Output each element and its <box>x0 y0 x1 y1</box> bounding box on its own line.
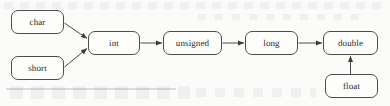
node-int[interactable]: int <box>88 31 140 55</box>
node-int-label: int <box>109 39 119 48</box>
node-float[interactable]: float <box>325 74 378 98</box>
edge-char-to-int <box>65 23 88 39</box>
node-double[interactable]: double <box>323 31 378 55</box>
node-long[interactable]: long <box>245 31 298 55</box>
node-char[interactable]: char <box>11 10 64 34</box>
node-float-label: float <box>343 82 360 91</box>
edge-short-to-int <box>65 49 88 68</box>
type-conversion-flowchart: char short int unsigned long double floa… <box>0 0 390 106</box>
node-double-label: double <box>338 39 363 48</box>
node-long-label: long <box>263 39 279 48</box>
node-unsigned[interactable]: unsigned <box>163 31 222 55</box>
node-short[interactable]: short <box>11 56 64 80</box>
node-char-label: char <box>30 18 46 27</box>
node-short-label: short <box>28 64 47 73</box>
node-unsigned-label: unsigned <box>176 39 209 48</box>
